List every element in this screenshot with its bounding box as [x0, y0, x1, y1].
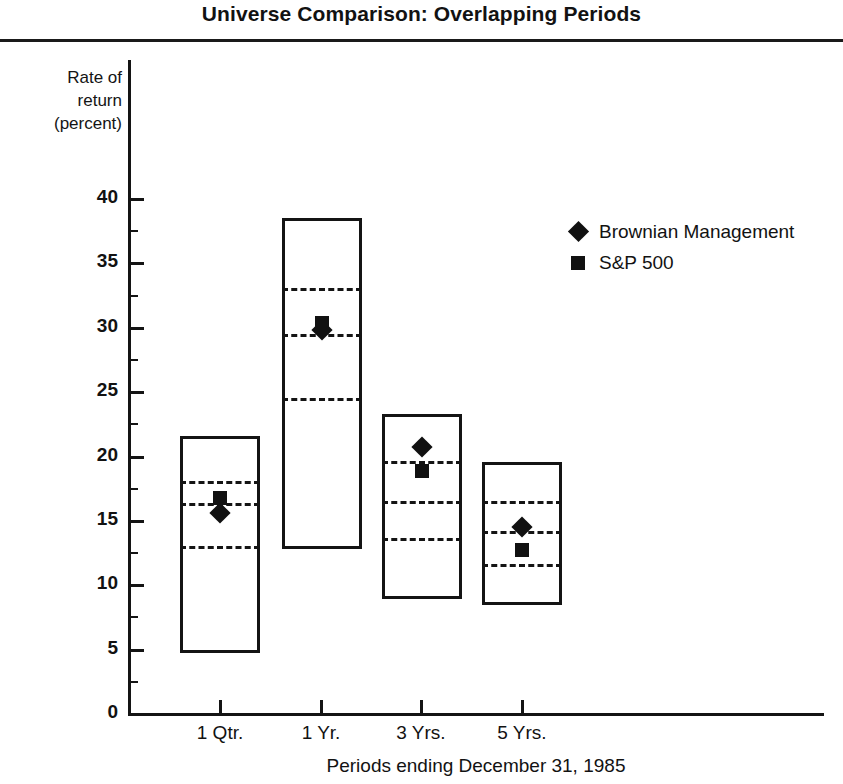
diamond-marker-icon [565, 224, 591, 239]
y-tick-label-25: 25 [58, 379, 118, 401]
y-tick-label-15: 15 [58, 508, 118, 530]
range-box-2 [282, 218, 362, 549]
square-data-marker-2 [315, 316, 329, 330]
y-tick-label-0: 0 [58, 701, 118, 723]
y-tick-25 [131, 391, 144, 394]
y-tick-5 [131, 649, 144, 652]
square-data-marker-4 [515, 543, 529, 557]
y-tick-20 [131, 456, 144, 459]
legend-label-sp-500: S&P 500 [599, 252, 674, 274]
y-tick-minor [131, 423, 138, 425]
lower-quartile-line-4 [482, 564, 562, 567]
lower-quartile-line-3 [382, 538, 462, 541]
y-tick-minor [131, 359, 138, 361]
y-tick-30 [131, 327, 144, 330]
y-axis-title-line-2: return [18, 89, 122, 112]
x-tick-3 [420, 700, 423, 714]
x-tick-4 [521, 700, 524, 714]
y-tick-label-10: 10 [58, 572, 118, 594]
median-line-3 [382, 501, 462, 504]
legend-label-brownian-management: Brownian Management [599, 221, 794, 243]
y-tick-minor [131, 230, 138, 232]
y-tick-minor [131, 616, 138, 618]
y-tick-label-40: 40 [58, 186, 118, 208]
y-tick-minor [131, 488, 138, 490]
x-axis-line [128, 713, 824, 716]
y-axis-title: Rate of return (percent) [18, 66, 122, 135]
y-axis-title-line-3: (percent) [18, 112, 122, 135]
square-data-marker-3 [415, 464, 429, 478]
y-tick-35 [131, 262, 144, 265]
y-tick-15 [131, 520, 144, 523]
x-tick-label-4: 5 Yrs. [452, 722, 592, 744]
x-tick-1 [219, 700, 222, 714]
upper-quartile-line-1 [180, 481, 260, 484]
square-marker-icon [565, 256, 591, 270]
upper-quartile-line-2 [282, 288, 362, 291]
plot-area: Rate of return (percent) 051015202530354… [0, 0, 843, 784]
y-tick-40 [131, 198, 144, 201]
lower-quartile-line-1 [180, 546, 260, 549]
y-tick-0 [131, 713, 144, 716]
y-tick-minor [131, 552, 138, 554]
square-data-marker-1 [213, 491, 227, 505]
y-tick-label-35: 35 [58, 250, 118, 272]
y-tick-label-30: 30 [58, 315, 118, 337]
x-tick-2 [320, 700, 323, 714]
legend: Brownian Management S&P 500 [565, 216, 794, 278]
y-axis-title-line-1: Rate of [18, 66, 122, 89]
legend-item-sp-500: S&P 500 [565, 247, 794, 278]
y-tick-label-20: 20 [58, 444, 118, 466]
upper-quartile-line-4 [482, 501, 562, 504]
lower-quartile-line-2 [282, 398, 362, 401]
y-tick-minor [131, 681, 138, 683]
legend-item-brownian-management: Brownian Management [565, 216, 794, 247]
y-tick-minor [131, 295, 138, 297]
x-axis-title: Periods ending December 31, 1985 [128, 755, 824, 777]
y-tick-label-5: 5 [58, 637, 118, 659]
y-tick-10 [131, 584, 144, 587]
